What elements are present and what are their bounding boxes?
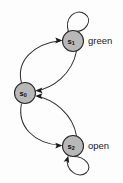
edge-s0-to-s2 xyxy=(21,104,61,146)
state-label-open: open xyxy=(88,140,109,151)
node-s2-subscript: 2 xyxy=(72,145,75,151)
self-loop-s1 xyxy=(68,12,89,32)
node-s1-subscript: 1 xyxy=(72,40,75,46)
node-s1[interactable]: s1 xyxy=(63,31,84,52)
node-s2[interactable]: s2 xyxy=(63,136,84,157)
arrowhead-s1-to-s0 xyxy=(35,87,42,93)
edge-s0-to-s1 xyxy=(20,41,60,84)
arrowhead-s2-to-s0 xyxy=(35,93,42,99)
state-machine-diagram: s0 s1 s2 green open xyxy=(0,0,123,183)
arrowhead-self-loop-s2 xyxy=(64,156,70,164)
state-label-green: green xyxy=(88,35,112,46)
edge-s2-to-s0 xyxy=(37,96,77,136)
diagram-canvas: s0 s1 s2 green open xyxy=(0,0,123,183)
arrowhead-s0-to-s2 xyxy=(55,143,62,149)
edge-s1-to-s0 xyxy=(37,51,77,91)
node-s0-subscript: 0 xyxy=(24,92,27,98)
node-s0[interactable]: s0 xyxy=(15,83,36,104)
arrowhead-s0-to-s1 xyxy=(55,38,62,44)
self-loop-s2 xyxy=(67,156,89,175)
